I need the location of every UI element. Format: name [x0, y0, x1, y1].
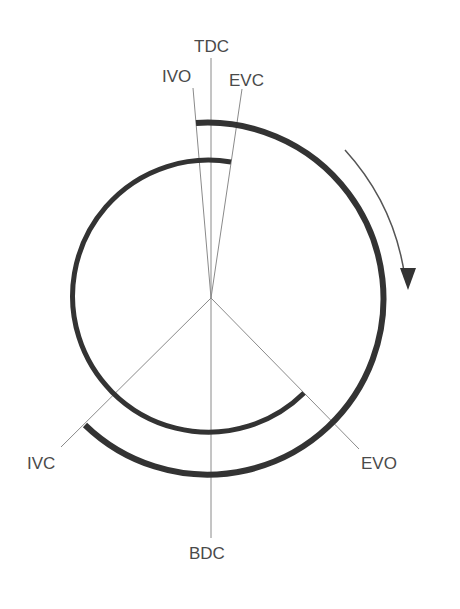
ivo-line — [193, 88, 211, 298]
intake-arc-outer — [85, 123, 383, 475]
label-evc: EVC — [229, 72, 264, 89]
valve-timing-diagram — [0, 0, 460, 609]
label-ivc: IVC — [27, 455, 55, 472]
label-tdc: TDC — [194, 38, 229, 55]
rotation-arrow-shaft — [345, 150, 405, 278]
exhaust-arc-inner — [73, 160, 304, 432]
label-bdc: BDC — [189, 545, 225, 562]
rotation-arrow-head-icon — [400, 268, 416, 290]
label-ivo: IVO — [162, 68, 191, 85]
label-evo: EVO — [361, 455, 397, 472]
ivc-line — [61, 298, 211, 447]
evo-line — [211, 298, 359, 449]
